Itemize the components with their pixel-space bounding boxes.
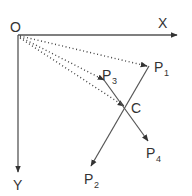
svg-text:P: P xyxy=(154,59,163,75)
svg-text:1: 1 xyxy=(164,68,169,78)
origin-label: O xyxy=(10,19,21,35)
vector-diagram: O X Y P 1 P 3 C P 4 P 2 xyxy=(0,0,192,196)
label-c: C xyxy=(131,100,141,116)
label-p3: P 3 xyxy=(102,67,117,86)
label-p1: P 1 xyxy=(154,59,169,78)
vector-o-p1 xyxy=(20,36,147,66)
label-p2: P 2 xyxy=(84,171,99,190)
svg-text:P: P xyxy=(84,171,93,187)
svg-text:2: 2 xyxy=(94,180,99,190)
svg-text:C: C xyxy=(131,100,141,116)
vector-o-p3 xyxy=(20,37,104,80)
label-p4: P 4 xyxy=(146,145,161,164)
x-axis-label: X xyxy=(158,15,168,31)
svg-text:3: 3 xyxy=(112,76,117,86)
svg-text:P: P xyxy=(146,145,155,161)
svg-text:4: 4 xyxy=(156,154,161,164)
line-p1-p2 xyxy=(91,66,149,166)
svg-text:P: P xyxy=(102,67,111,83)
y-axis-label: Y xyxy=(13,177,23,193)
